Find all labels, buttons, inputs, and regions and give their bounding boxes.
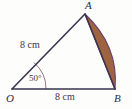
side-oa-line	[12, 14, 85, 89]
side-ob-length-label: 8 cm	[55, 92, 75, 102]
side-oa-length-label: 8 cm	[20, 40, 40, 50]
geometry-figure: A B O 8 cm 8 cm 50°	[0, 0, 132, 109]
vertex-label-a: A	[85, 0, 92, 11]
angle-o-value-label: 50°	[29, 74, 42, 83]
vertex-label-o: O	[6, 93, 14, 104]
vertex-label-b: B	[114, 93, 121, 104]
